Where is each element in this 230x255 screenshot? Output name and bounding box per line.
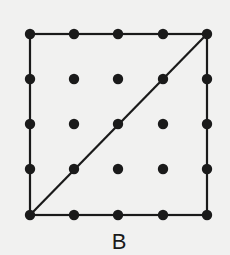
grid-dot — [158, 29, 168, 39]
geoboard-diagram — [0, 0, 230, 255]
grid-dot — [69, 29, 79, 39]
grid-dot — [158, 74, 168, 84]
grid-dot — [202, 74, 212, 84]
grid-dot — [158, 164, 168, 174]
grid-dot — [202, 119, 212, 129]
grid-dot — [113, 29, 123, 39]
grid-dot — [113, 164, 123, 174]
grid-dot — [69, 119, 79, 129]
grid-dot — [158, 210, 168, 220]
grid-dot — [202, 164, 212, 174]
grid-dot — [69, 164, 79, 174]
grid-dot — [25, 164, 35, 174]
grid-dot — [69, 74, 79, 84]
figure-label: B — [0, 230, 230, 254]
grid-dot — [158, 119, 168, 129]
grid-dot — [113, 119, 123, 129]
grid-dot — [113, 210, 123, 220]
grid-dot — [113, 74, 123, 84]
grid-dot — [25, 210, 35, 220]
grid-dot — [69, 210, 79, 220]
grid-dot — [25, 119, 35, 129]
grid-dot — [25, 74, 35, 84]
grid-dot — [202, 210, 212, 220]
grid-dot — [25, 29, 35, 39]
dot-grid-figure: B — [0, 0, 230, 255]
grid-dot — [202, 29, 212, 39]
